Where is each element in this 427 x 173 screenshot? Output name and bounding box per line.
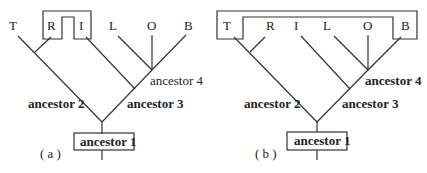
phylogeny-diagram: T R I L O B ancestor 4 ancestor 2 ancest… <box>0 0 427 173</box>
caption-a: ( a ) <box>40 146 61 161</box>
leaf-b: B <box>401 18 410 33</box>
leaf-o: O <box>147 18 156 33</box>
ancestor-3-label: ancestor 3 <box>127 96 184 111</box>
branch-b <box>152 35 186 70</box>
leaf-i: I <box>294 18 298 33</box>
branch-b <box>368 37 401 70</box>
caption-b: ( b ) <box>255 146 277 161</box>
ancestor-2-label: ancestor 2 <box>28 96 84 111</box>
leaf-r: R <box>47 18 56 33</box>
leaf-l: L <box>323 18 331 33</box>
ancestor-3-label: ancestor 3 <box>342 96 399 111</box>
ancestor-2-label: ancestor 2 <box>244 96 300 111</box>
leaf-l: L <box>109 18 117 33</box>
ancestor-4-label: ancestor 4 <box>365 73 422 88</box>
ancestor-1-label: ancestor 1 <box>80 134 136 149</box>
branch-l <box>334 36 368 70</box>
panel-a: T R I L O B ancestor 4 ancestor 2 ancest… <box>9 11 204 161</box>
branch-l <box>118 36 152 70</box>
branch-r <box>250 37 265 52</box>
leaf-t: T <box>223 18 231 33</box>
leaf-b: B <box>184 18 193 33</box>
leaf-t: T <box>9 18 17 33</box>
ancestor-1-label: ancestor 1 <box>294 133 350 148</box>
leaf-i: I <box>79 18 83 33</box>
panel-b: T R I L O B ancestor 4 ancestor 2 ancest… <box>217 11 422 161</box>
branch-i <box>86 37 135 89</box>
leaf-r: R <box>266 18 275 33</box>
leaf-o: O <box>363 18 372 33</box>
group-box-t-b <box>217 11 417 39</box>
ancestor-4-label: ancestor 4 <box>150 73 204 88</box>
